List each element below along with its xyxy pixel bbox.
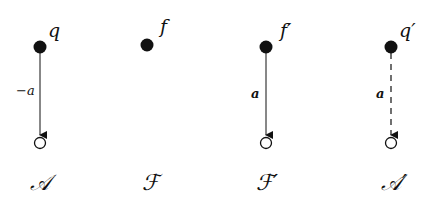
diagram-F-prime: f′ a ℱ′ <box>251 19 292 195</box>
filled-node <box>141 39 154 52</box>
diagram-F: f ℱ <box>141 15 171 195</box>
node-label: q <box>48 19 60 41</box>
diagram-canvas: q −a 𝒜 f ℱ f′ a ℱ′ q′ a 𝒜′ <box>0 0 428 203</box>
filled-node <box>385 41 398 54</box>
node-label: f <box>158 15 170 37</box>
diagram-title: 𝒜′ <box>381 170 408 195</box>
filled-node <box>34 41 47 54</box>
diagram-A: q −a 𝒜 <box>16 19 60 195</box>
hollow-node <box>386 138 397 149</box>
node-label: q′ <box>399 19 416 41</box>
diagram-title: 𝒜 <box>30 170 57 195</box>
hollow-node <box>261 138 272 149</box>
diagram-A-prime: q′ a 𝒜′ <box>376 19 416 195</box>
diagram-title: ℱ <box>142 170 163 195</box>
diagram-title: ℱ′ <box>256 170 278 195</box>
filled-node <box>260 41 273 54</box>
edge-label: a <box>251 86 259 101</box>
node-label: f′ <box>278 19 292 41</box>
hollow-node <box>35 138 46 149</box>
edge-label: a <box>376 86 384 101</box>
edge-label: −a <box>16 83 35 98</box>
